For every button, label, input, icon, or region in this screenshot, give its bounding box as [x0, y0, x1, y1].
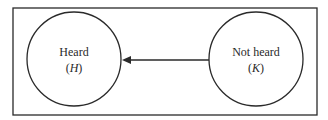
arrowhead-icon [122, 56, 131, 64]
node-not-heard: Not heard (K) [211, 44, 301, 76]
node-heard-label: Heard [34, 44, 114, 60]
node-not-heard-label: Not heard [211, 44, 301, 60]
node-not-heard-symbol: (K) [211, 60, 301, 76]
node-heard: Heard (H) [34, 44, 114, 76]
node-heard-symbol: (H) [34, 60, 114, 76]
